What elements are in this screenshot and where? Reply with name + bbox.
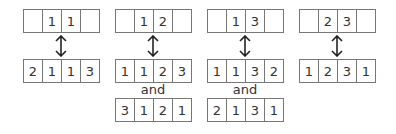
cell: 1 — [265, 99, 283, 121]
cell: 1 — [62, 10, 81, 32]
bottom-row: 2 1 1 3 — [23, 59, 100, 83]
group-2: 1 2 1 1 2 3 and 3 1 2 1 — [115, 0, 191, 134]
cell — [300, 10, 319, 32]
cell: 2 — [154, 10, 173, 32]
group-1: 1 1 2 1 1 3 — [23, 0, 99, 134]
cell: 2 — [208, 99, 227, 121]
cell: 1 — [173, 99, 191, 121]
cell: 1 — [135, 60, 154, 82]
up-down-arrow-icon — [235, 34, 255, 58]
cell: 2 — [319, 60, 338, 82]
cell — [173, 10, 191, 32]
cell: 1 — [300, 60, 319, 82]
cell: 3 — [81, 60, 99, 82]
cell — [208, 10, 227, 32]
cell — [81, 10, 99, 32]
cell: 2 — [154, 99, 173, 121]
cell — [116, 10, 135, 32]
cell: 3 — [246, 99, 265, 121]
cell: 1 — [43, 60, 62, 82]
cell: 1 — [227, 99, 246, 121]
cell: 2 — [154, 60, 173, 82]
top-row: 1 2 — [115, 9, 192, 33]
group-4: 2 3 1 2 3 1 — [299, 0, 375, 134]
cell: 3 — [246, 60, 265, 82]
up-down-arrow-icon — [327, 34, 347, 58]
cell: 2 — [319, 10, 338, 32]
bottom-row: 1 2 3 1 — [299, 59, 376, 83]
cell: 3 — [246, 10, 265, 32]
top-row: 1 3 — [207, 9, 284, 33]
cell: 1 — [43, 10, 62, 32]
cell: 1 — [357, 60, 375, 82]
extra-row: 3 1 2 1 — [115, 98, 192, 122]
cell: 1 — [227, 60, 246, 82]
cell: 1 — [227, 10, 246, 32]
bottom-row: 1 1 3 2 — [207, 59, 284, 83]
cell — [24, 10, 43, 32]
cell: 3 — [338, 60, 357, 82]
and-label: and — [115, 81, 191, 98]
cell: 1 — [135, 10, 154, 32]
and-label: and — [207, 81, 283, 98]
top-row: 2 3 — [299, 9, 376, 33]
cell: 1 — [135, 99, 154, 121]
cell: 3 — [116, 99, 135, 121]
cell — [357, 10, 375, 32]
cell: 3 — [338, 10, 357, 32]
up-down-arrow-icon — [143, 34, 163, 58]
cell: 3 — [173, 60, 191, 82]
extra-row: 2 1 3 1 — [207, 98, 284, 122]
top-row: 1 1 — [23, 9, 100, 33]
cell: 2 — [24, 60, 43, 82]
cell — [265, 10, 283, 32]
cell: 1 — [116, 60, 135, 82]
cell: 1 — [62, 60, 81, 82]
bottom-row: 1 1 2 3 — [115, 59, 192, 83]
cell: 1 — [208, 60, 227, 82]
up-down-arrow-icon — [51, 34, 71, 58]
group-3: 1 3 1 1 3 2 and 2 1 3 1 — [207, 0, 283, 134]
cell: 2 — [265, 60, 283, 82]
